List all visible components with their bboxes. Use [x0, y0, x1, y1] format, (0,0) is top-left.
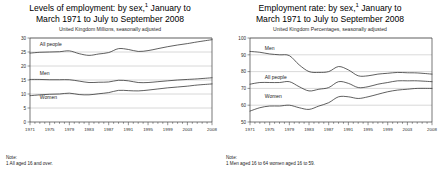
title-line-3: March 1971 to July to September 2008: [36, 14, 184, 24]
series-line-men: [250, 51, 432, 76]
series-label-all-people: All people: [40, 41, 62, 47]
y-axis-tick-label: 80: [241, 69, 247, 74]
chart-svg-rate: 6070809010050197119751979198319871991199…: [220, 34, 440, 142]
plot-area-rate: 6070809010050197119751979198319871991199…: [220, 34, 440, 142]
series-label-men: Men: [40, 70, 50, 76]
note-text-rate: 1 Men aged 16 to 64 women aged 16 to 59.: [226, 161, 315, 167]
x-axis-tick-label: 1999: [383, 127, 393, 132]
panel-subtitle-rate: United Kingdom Percentages, seasonally a…: [220, 26, 440, 33]
title-line-3: March 1971 to July to September 2008: [256, 14, 404, 24]
x-axis-tick-label: 2003: [183, 127, 193, 132]
y-axis-tick-label: 100: [238, 36, 246, 41]
panel-employment-rate: Employment rate: by sex,1 January to Mar…: [220, 0, 440, 173]
title-line-1: Levels of employment: by sex,: [29, 3, 145, 13]
y-axis-tick-label: 60: [241, 103, 247, 108]
employment-figure: Levels of employment: by sex,1 January t…: [0, 0, 440, 173]
series-label-men: Men: [265, 45, 275, 51]
x-axis-tick-label: 1995: [143, 127, 153, 132]
series-line-women: [250, 88, 432, 111]
x-axis-tick-label: 1995: [363, 127, 373, 132]
note-text-levels: 1 All aged 16 and over.: [6, 161, 53, 167]
notes-rate: Note: 1 Men aged 16 to 64 women aged 16 …: [226, 155, 315, 167]
y-axis-tick-label: 15: [21, 78, 27, 83]
notes-levels: Note: 1 All aged 16 and over.: [6, 155, 53, 167]
panel-title-rate: Employment rate: by sex,1 January to Mar…: [220, 0, 440, 24]
x-axis-tick-label: 1971: [245, 127, 255, 132]
title-line-1: Employment rate: by sex,: [259, 3, 356, 13]
panel-title-levels: Levels of employment: by sex,1 January t…: [0, 0, 220, 24]
y-axis-tick-label: 70: [241, 86, 247, 91]
y-axis-tick-label: 50: [241, 120, 247, 125]
panel-subtitle-levels: United Kingdom Millions, seasonally adju…: [0, 26, 220, 33]
y-axis-tick-label: 90: [241, 53, 247, 58]
title-line-2: January to: [148, 3, 191, 13]
x-axis-tick-label: 2008: [427, 127, 437, 132]
x-axis-tick-label: 1999: [163, 127, 173, 132]
chart-svg-levels: 5101520253001971197519791983198719911995…: [0, 34, 220, 142]
y-axis-tick-label: 30: [21, 36, 27, 41]
y-axis-tick-label: 20: [21, 64, 27, 69]
panel-levels-of-employment: Levels of employment: by sex,1 January t…: [0, 0, 220, 173]
x-axis-tick-label: 1983: [304, 127, 314, 132]
x-axis-tick-label: 1975: [265, 127, 275, 132]
x-axis-tick-label: 1987: [324, 127, 334, 132]
x-axis-tick-label: 1971: [25, 127, 35, 132]
y-axis-tick-label: 25: [21, 50, 27, 55]
series-label-women: Women: [265, 93, 282, 99]
y-axis-tick-label: 10: [21, 92, 27, 97]
series-label-all-people: All people: [265, 74, 287, 80]
x-axis-tick-label: 1987: [104, 127, 114, 132]
y-axis-tick-label: 0: [23, 120, 26, 125]
x-axis-tick-label: 1979: [284, 127, 294, 132]
x-axis-tick-label: 1991: [343, 127, 353, 132]
x-axis-tick-label: 2008: [207, 127, 217, 132]
x-axis-tick-label: 1975: [45, 127, 55, 132]
title-line-2: January to: [359, 3, 402, 13]
x-axis-tick-label: 2003: [403, 127, 413, 132]
x-axis-tick-label: 1991: [123, 127, 133, 132]
y-axis-tick-label: 5: [23, 106, 26, 111]
plot-area-levels: 5101520253001971197519791983198719911995…: [0, 34, 220, 142]
x-axis-tick-label: 1979: [64, 127, 74, 132]
series-label-women: Women: [40, 94, 57, 100]
x-axis-tick-label: 1983: [84, 127, 94, 132]
